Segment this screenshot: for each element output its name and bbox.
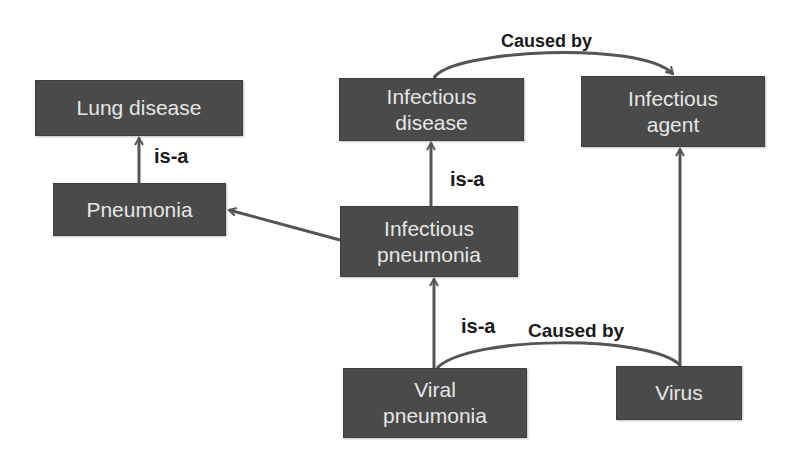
node-lung-disease: Lung disease [35,80,243,136]
label-caused-by-top: Caused by [501,31,592,52]
label-isa-viral: is-a [461,315,495,338]
edge-caused-by-bottom [437,343,680,368]
node-infectious-agent: Infectious agent [581,76,765,147]
node-pneumonia: Pneumonia [53,183,226,236]
edge-caused-by-top [434,52,673,78]
node-virus: Virus [616,366,742,420]
node-infectious-disease: Infectious disease [339,78,524,141]
label-caused-by-bottom: Caused by [528,320,624,342]
label-isa-infectious: is-a [450,168,484,191]
node-infectious-pneumonia: Infectious pneumonia [340,206,518,277]
node-viral-pneumonia: Viral pneumonia [343,368,527,438]
label-isa-lung: is-a [154,145,188,168]
edge-infectious-pneumonia-to-pneumonia [229,210,340,240]
